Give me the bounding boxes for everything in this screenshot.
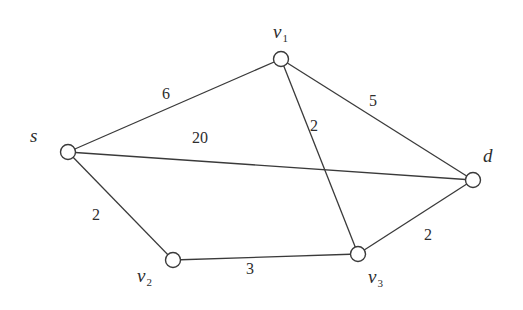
node-label-name: d: [483, 145, 493, 166]
edge-v1-v3: [281, 59, 358, 254]
node-v2: [166, 253, 181, 268]
node-label-subscript: 2: [146, 276, 152, 288]
nodes: [61, 52, 481, 268]
edge-weight-s-d: 20: [192, 129, 208, 146]
node-label-subscript: 3: [377, 277, 383, 289]
node-label-d: d: [483, 145, 493, 166]
edge-weight-s-v1: 6: [162, 85, 170, 102]
node-label-name: v: [137, 265, 146, 286]
node-label-s: s: [30, 125, 37, 146]
edge-weight-v3-d: 2: [424, 226, 432, 243]
edge-weight-v1-d: 5: [369, 92, 377, 109]
node-v3: [351, 247, 366, 262]
edge-s-v2: [68, 152, 173, 260]
edge-s-d: [68, 152, 473, 180]
edge-weight-s-v2: 2: [92, 206, 100, 223]
node-label-name: v: [273, 21, 282, 42]
edge-weight-v2-v3: 3: [246, 260, 254, 277]
edge-weight-v1-v3: 2: [310, 117, 318, 134]
node-label-name: s: [30, 125, 37, 146]
edge-weights: 62025232: [92, 85, 432, 277]
node-v1: [274, 52, 289, 67]
node-labels: sv1dv2v3: [30, 21, 493, 289]
edge-s-v1: [68, 59, 281, 152]
edge-v3-d: [358, 180, 473, 254]
node-label-name: v: [368, 266, 377, 287]
edges: [68, 59, 473, 260]
node-label-v2: v2: [137, 265, 152, 288]
edge-v2-v3: [173, 254, 358, 260]
node-s: [61, 145, 76, 160]
node-label-v3: v3: [368, 266, 383, 289]
node-label-v1: v1: [273, 21, 288, 44]
node-d: [466, 173, 481, 188]
node-label-subscript: 1: [282, 32, 288, 44]
graph-diagram: 62025232 sv1dv2v3: [0, 0, 523, 310]
